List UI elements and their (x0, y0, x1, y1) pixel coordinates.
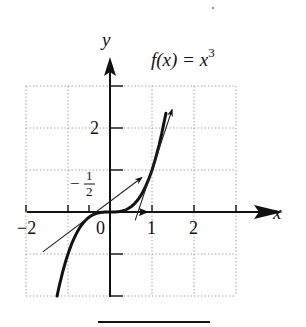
labels: −20122 (17, 118, 198, 238)
chart-title: f(x) = x3 (151, 45, 215, 71)
x-tick-label: 1 (147, 218, 156, 238)
axis-ticks (26, 86, 236, 296)
x-axis-label: x (272, 202, 282, 223)
cubic-curve (57, 113, 166, 296)
x-tick-label: −2 (17, 218, 36, 238)
y-tick-label: 2 (90, 118, 99, 138)
annotation-denominator: 2 (86, 184, 93, 199)
scan-speck (212, 7, 214, 9)
y-axis-label: y (100, 29, 111, 50)
x-tick-label: 2 (189, 218, 198, 238)
annotation-numerator: 1 (86, 168, 93, 183)
tangent-at-1 (135, 110, 172, 221)
grid (26, 86, 236, 296)
title-lhs: f(x) = x (151, 49, 209, 71)
series-group (43, 110, 172, 296)
title-exponent: 3 (208, 45, 215, 60)
x-tick-label: 0 (96, 218, 105, 238)
annotation-sign: − (70, 174, 80, 193)
chart-figure: −20122 x y f(x) = x3 − 1 2 (0, 0, 306, 327)
annotation-minus-half: − 1 2 (70, 168, 95, 199)
